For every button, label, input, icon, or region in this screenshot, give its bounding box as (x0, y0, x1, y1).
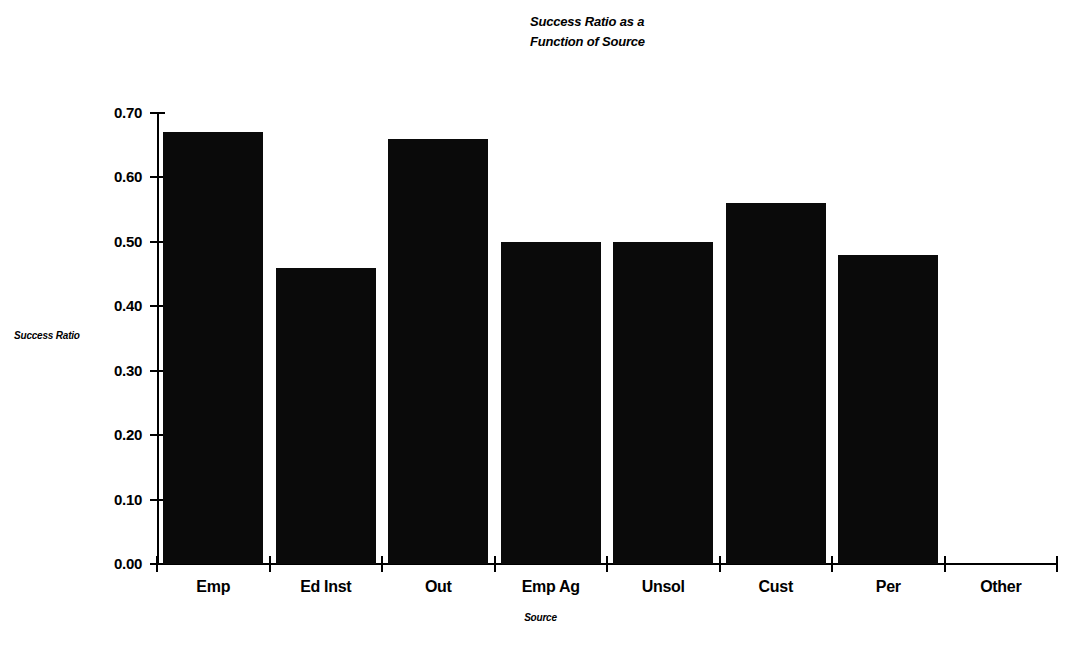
y-axis-tick-label-text: 0.20 (82, 427, 142, 442)
x-axis-tick (269, 556, 271, 572)
x-axis-tick-label: Ed Inst (270, 578, 383, 596)
y-axis-tick-label: 0.70 (82, 105, 142, 120)
y-axis-title: Success Ratio (14, 330, 80, 341)
bar (726, 203, 826, 564)
x-axis-tick (381, 556, 383, 572)
x-axis-tick-label: Out (382, 578, 495, 596)
y-axis-tick-label-text: 0.70 (82, 105, 142, 120)
chart-title: Success Ratio as a Function of Source (530, 12, 645, 52)
y-axis-tick-label-text: 0.00 (82, 556, 142, 571)
bar (501, 242, 601, 564)
x-axis-title: Source (0, 612, 1081, 623)
y-axis-tick-label-text: 0.10 (82, 492, 142, 507)
x-axis-tick-label: Emp (157, 578, 270, 596)
y-axis-line (157, 113, 159, 565)
bar (388, 139, 488, 564)
y-axis-tick-label: 0.20 (82, 427, 142, 442)
bar (276, 268, 376, 564)
y-axis-tick-label: 0.50 (82, 234, 142, 249)
y-axis-tick-label-text: 0.60 (82, 169, 142, 184)
x-axis-tick-label: Unsol (607, 578, 720, 596)
y-axis-tick-label-text: 0.30 (82, 363, 142, 378)
x-axis-tick-label: Emp Ag (495, 578, 608, 596)
y-axis-tick-label: 0.60 (82, 169, 142, 184)
x-axis-tick (1056, 556, 1058, 572)
x-axis-tick-label: Per (832, 578, 945, 596)
bar (163, 132, 263, 564)
y-axis-tick-label: 0.00 (82, 556, 142, 571)
bar (838, 255, 938, 564)
y-axis-tick (150, 112, 165, 114)
x-axis-tick (719, 556, 721, 572)
bar-chart: Success Ratio as a Function of Source Su… (0, 0, 1081, 650)
y-axis-tick-label: 0.40 (82, 298, 142, 313)
x-axis-tick-label: Other (945, 578, 1058, 596)
x-axis-tick (606, 556, 608, 572)
chart-title-line-1: Success Ratio as a (530, 14, 644, 29)
y-axis-tick-label: 0.10 (82, 492, 142, 507)
chart-title-line-2: Function of Source (530, 32, 645, 52)
x-axis-tick-label: Cust (720, 578, 833, 596)
y-axis-tick-label-text: 0.50 (82, 234, 142, 249)
y-axis-tick-label: 0.30 (82, 363, 142, 378)
x-axis-tick (831, 556, 833, 572)
x-axis-tick (494, 556, 496, 572)
x-axis-tick (156, 556, 158, 572)
bar (613, 242, 713, 564)
y-axis-tick-label-text: 0.40 (82, 298, 142, 313)
x-axis-tick (944, 556, 946, 572)
